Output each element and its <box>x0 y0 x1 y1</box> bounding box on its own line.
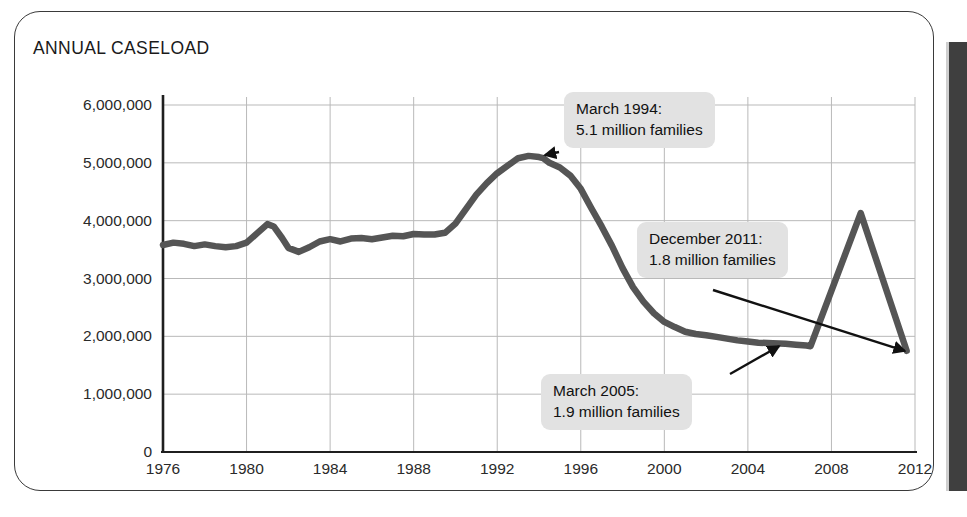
x-axis-tick-1980: 1980 <box>229 460 263 478</box>
annotation-line-1: March 1994: <box>576 99 703 120</box>
y-axis-tick-2000000: 2,000,000 <box>40 327 152 345</box>
y-axis-tick-1000000: 1,000,000 <box>40 385 152 403</box>
y-axis-tick-5000000: 5,000,000 <box>40 154 152 172</box>
screenshot-page: ANNUAL CASELOAD 01,000,0002,000,0003,000… <box>0 0 967 517</box>
chart-series-line <box>163 156 907 351</box>
x-axis-tick-1988: 1988 <box>396 460 430 478</box>
x-axis-tick-1984: 1984 <box>313 460 347 478</box>
annotation-line-2: 1.8 million families <box>649 250 776 271</box>
chart-gridlines <box>163 97 915 452</box>
y-axis-tick-0: 0 <box>40 443 152 461</box>
annotation-line-1: March 2005: <box>553 381 680 402</box>
y-axis-tick-4000000: 4,000,000 <box>40 212 152 230</box>
x-axis-tick-1976: 1976 <box>146 460 180 478</box>
y-axis-tick-6000000: 6,000,000 <box>40 96 152 114</box>
annotation-line-2: 5.1 million families <box>576 120 703 141</box>
x-axis-tick-1996: 1996 <box>564 460 598 478</box>
annotation-callout-december-2011: December 2011: 1.8 million families <box>637 222 788 278</box>
annotation-callout-march-2005: March 2005: 1.9 million families <box>541 374 692 430</box>
x-axis-tick-1992: 1992 <box>480 460 514 478</box>
x-axis-tick-2008: 2008 <box>814 460 848 478</box>
annotation-callout-march-1994: March 1994: 5.1 million families <box>564 92 715 148</box>
x-axis-tick-2012: 2012 <box>898 460 932 478</box>
x-axis-tick-2000: 2000 <box>647 460 681 478</box>
annotation-line-1: December 2011: <box>649 229 776 250</box>
y-axis-tick-3000000: 3,000,000 <box>40 270 152 288</box>
chart-axes <box>161 95 917 452</box>
x-axis-tick-2004: 2004 <box>731 460 765 478</box>
chart-plot <box>0 0 967 517</box>
annotation-line-2: 1.9 million families <box>553 402 680 423</box>
